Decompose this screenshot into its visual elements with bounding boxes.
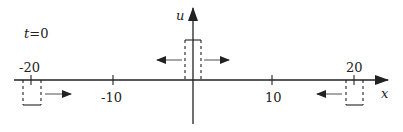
x-axis-label: x [381,86,389,101]
tick-label-neg20: -20 [19,60,40,75]
tick-label-10: 10 [265,90,282,105]
wave-diagram: -20 -10 10 20 u x t=0 [0,0,403,132]
time-label-rest: =0 [29,26,48,41]
u-axis-label: u [176,8,184,23]
tick-label-neg10: -10 [101,90,122,105]
left-pulse [23,80,41,105]
diagram-canvas: -20 -10 10 20 u x t=0 [0,0,403,132]
tick-label-20: 20 [346,60,363,75]
time-label: t=0 [24,26,48,41]
